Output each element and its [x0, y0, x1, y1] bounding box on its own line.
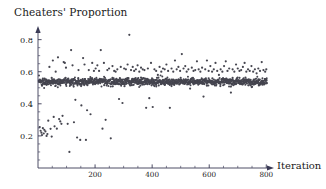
- x-axis-tick-label: 400: [145, 170, 159, 179]
- data-point-outlier: [240, 69, 242, 71]
- data-point: [265, 79, 267, 81]
- data-point-outlier: [106, 69, 108, 71]
- data-point: [107, 85, 109, 87]
- data-point: [187, 76, 189, 78]
- data-point-outlier: [244, 62, 246, 64]
- data-point-outlier: [223, 65, 225, 67]
- data-point: [207, 84, 209, 86]
- data-point: [103, 84, 105, 86]
- data-point: [83, 84, 85, 86]
- data-point-outlier: [67, 123, 69, 125]
- data-point-outlier: [247, 68, 249, 70]
- data-point-outlier: [93, 70, 95, 72]
- data-point-outlier: [98, 70, 100, 72]
- data-point-outlier: [184, 65, 186, 67]
- data-point: [139, 84, 141, 86]
- data-point-outlier: [242, 66, 244, 68]
- data-point-outlier: [59, 120, 61, 122]
- data-point-outlier: [194, 69, 196, 71]
- data-point-outlier: [170, 67, 172, 69]
- data-point-outlier: [47, 120, 49, 122]
- data-point-outlier: [164, 68, 166, 70]
- data-point-outlier: [262, 69, 264, 71]
- data-point-outlier: [145, 107, 147, 109]
- data-point-outlier: [53, 125, 55, 127]
- data-point: [101, 85, 103, 87]
- data-point: [228, 86, 230, 88]
- data-point-outlier: [110, 137, 112, 139]
- data-point-outlier: [264, 71, 266, 73]
- data-point: [220, 83, 222, 85]
- data-point-outlier: [232, 68, 234, 70]
- data-point-outlier: [52, 59, 54, 61]
- data-point-outlier: [204, 68, 206, 70]
- data-point: [50, 84, 52, 86]
- data-point-outlier: [196, 60, 198, 62]
- data-point-outlier: [177, 66, 179, 68]
- data-point-outlier: [65, 67, 67, 69]
- data-point-outlier: [58, 118, 60, 120]
- data-point-outlier: [86, 109, 88, 111]
- data-point-outlier: [218, 74, 220, 76]
- data-point: [157, 77, 159, 79]
- data-point: [232, 77, 234, 79]
- data-point: [205, 77, 207, 79]
- data-point-outlier: [136, 64, 138, 66]
- data-point: [82, 78, 84, 80]
- y-axis-tick-label: 0.4: [20, 99, 33, 109]
- data-point-outlier: [89, 113, 91, 115]
- x-axis-tick-label: 800: [259, 170, 273, 179]
- data-point: [166, 76, 168, 78]
- data-point-outlier: [40, 132, 42, 134]
- data-point-outlier: [228, 67, 230, 69]
- data-point-outlier: [165, 63, 167, 65]
- data-point-outlier: [138, 71, 140, 73]
- data-point-outlier: [80, 104, 82, 106]
- data-point-outlier: [83, 63, 85, 65]
- data-point-outlier: [44, 130, 46, 132]
- data-point: [133, 84, 135, 86]
- data-point-outlier: [53, 116, 55, 118]
- data-point-outlier: [249, 70, 251, 72]
- data-point-outlier: [91, 62, 93, 64]
- data-point-outlier: [255, 72, 257, 74]
- data-point: [110, 78, 112, 80]
- data-point-outlier: [105, 119, 107, 121]
- data-point-outlier: [147, 67, 149, 69]
- data-point-outlier: [111, 65, 113, 67]
- data-point-outlier: [101, 128, 103, 130]
- data-point-outlier: [143, 69, 145, 71]
- data-point: [155, 85, 157, 87]
- data-point-outlier: [252, 71, 254, 73]
- data-point-outlier: [257, 67, 259, 69]
- data-point-outlier: [235, 63, 237, 65]
- data-point-outlier: [181, 53, 183, 55]
- data-point: [244, 76, 246, 78]
- data-point-outlier: [237, 67, 239, 69]
- data-point-outlier: [176, 68, 178, 70]
- data-point-outlier: [73, 121, 75, 123]
- data-point-outlier: [88, 69, 90, 71]
- data-point-outlier: [95, 67, 97, 69]
- y-axis-tick-label: 0.8: [20, 35, 33, 45]
- data-point: [238, 77, 240, 79]
- data-point: [127, 77, 129, 79]
- data-point: [230, 86, 232, 88]
- data-point-outlier: [186, 71, 188, 73]
- data-point: [74, 77, 76, 79]
- data-point-outlier: [225, 60, 227, 62]
- data-point-outlier: [61, 115, 63, 117]
- data-point-outlier: [152, 106, 154, 108]
- data-point-outlier: [221, 71, 223, 73]
- data-point-outlier: [213, 68, 215, 70]
- data-point-outlier: [216, 70, 218, 72]
- data-point-outlier: [125, 68, 127, 70]
- data-point-outlier: [150, 62, 152, 64]
- data-point: [105, 79, 107, 81]
- data-point: [77, 84, 79, 86]
- data-point-outlier: [132, 66, 134, 68]
- data-point: [160, 74, 162, 76]
- data-point: [219, 85, 221, 87]
- data-point-outlier: [118, 98, 120, 100]
- data-point-outlier: [121, 102, 123, 104]
